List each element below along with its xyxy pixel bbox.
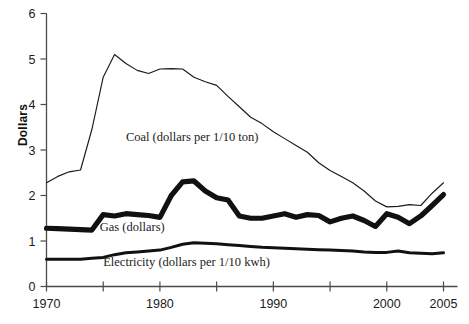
y-axis: 0123456 — [29, 7, 47, 294]
y-tick-label: 1 — [29, 235, 36, 249]
y-tick-label: 5 — [29, 53, 36, 67]
x-tick-label: 2005 — [430, 297, 458, 311]
annotation-gas-label: Gas (dollars) — [100, 220, 165, 234]
y-tick-label: 2 — [29, 189, 36, 203]
y-tick-label: 6 — [29, 7, 36, 21]
x-tick-label: 2000 — [373, 297, 401, 311]
y-tick-label: 0 — [29, 280, 36, 294]
y-tick-label: 3 — [29, 144, 36, 158]
energy-price-chart: Dollars 0123456 19701980199020002005 Coa… — [0, 0, 469, 324]
annotation-coal-label: Coal (dollars per 1/10 ton) — [126, 130, 259, 144]
annotation-layer: Coal (dollars per 1/10 ton)Gas (dollars)… — [100, 130, 270, 269]
x-tick-label: 1970 — [33, 297, 61, 311]
annotation-electricity-label: Electricity (dollars per 1/10 kwh) — [103, 255, 270, 269]
y-tick-label: 4 — [29, 98, 36, 112]
x-tick-label: 1990 — [259, 297, 287, 311]
chart-canvas: 0123456 19701980199020002005 Coal (dolla… — [0, 0, 469, 324]
x-tick-label: 1980 — [146, 297, 174, 311]
x-axis: 19701980199020002005 — [33, 282, 458, 311]
